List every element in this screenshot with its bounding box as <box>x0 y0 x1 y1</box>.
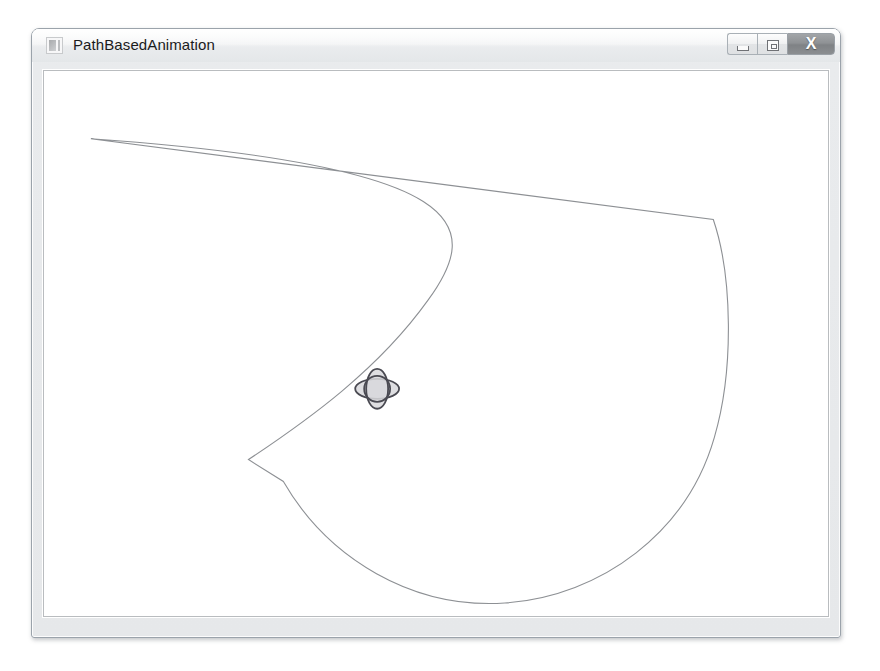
window-title: PathBasedAnimation <box>73 35 215 55</box>
animation-canvas[interactable] <box>44 71 828 616</box>
maximize-icon <box>767 40 779 51</box>
sprite-ellipse-vertical <box>366 369 388 409</box>
application-window: PathBasedAnimation X <box>31 28 841 638</box>
maximize-button[interactable] <box>757 33 787 55</box>
application-window-icon <box>46 37 63 54</box>
animation-path <box>91 139 729 604</box>
close-button[interactable]: X <box>787 33 835 55</box>
minimize-icon <box>737 46 749 51</box>
animated-sprite <box>355 369 399 409</box>
title-bar[interactable]: PathBasedAnimation X <box>32 29 840 62</box>
minimize-button[interactable] <box>727 33 757 55</box>
caption-button-group: X <box>727 33 835 56</box>
close-icon: X <box>788 34 834 54</box>
client-area[interactable] <box>43 70 829 617</box>
